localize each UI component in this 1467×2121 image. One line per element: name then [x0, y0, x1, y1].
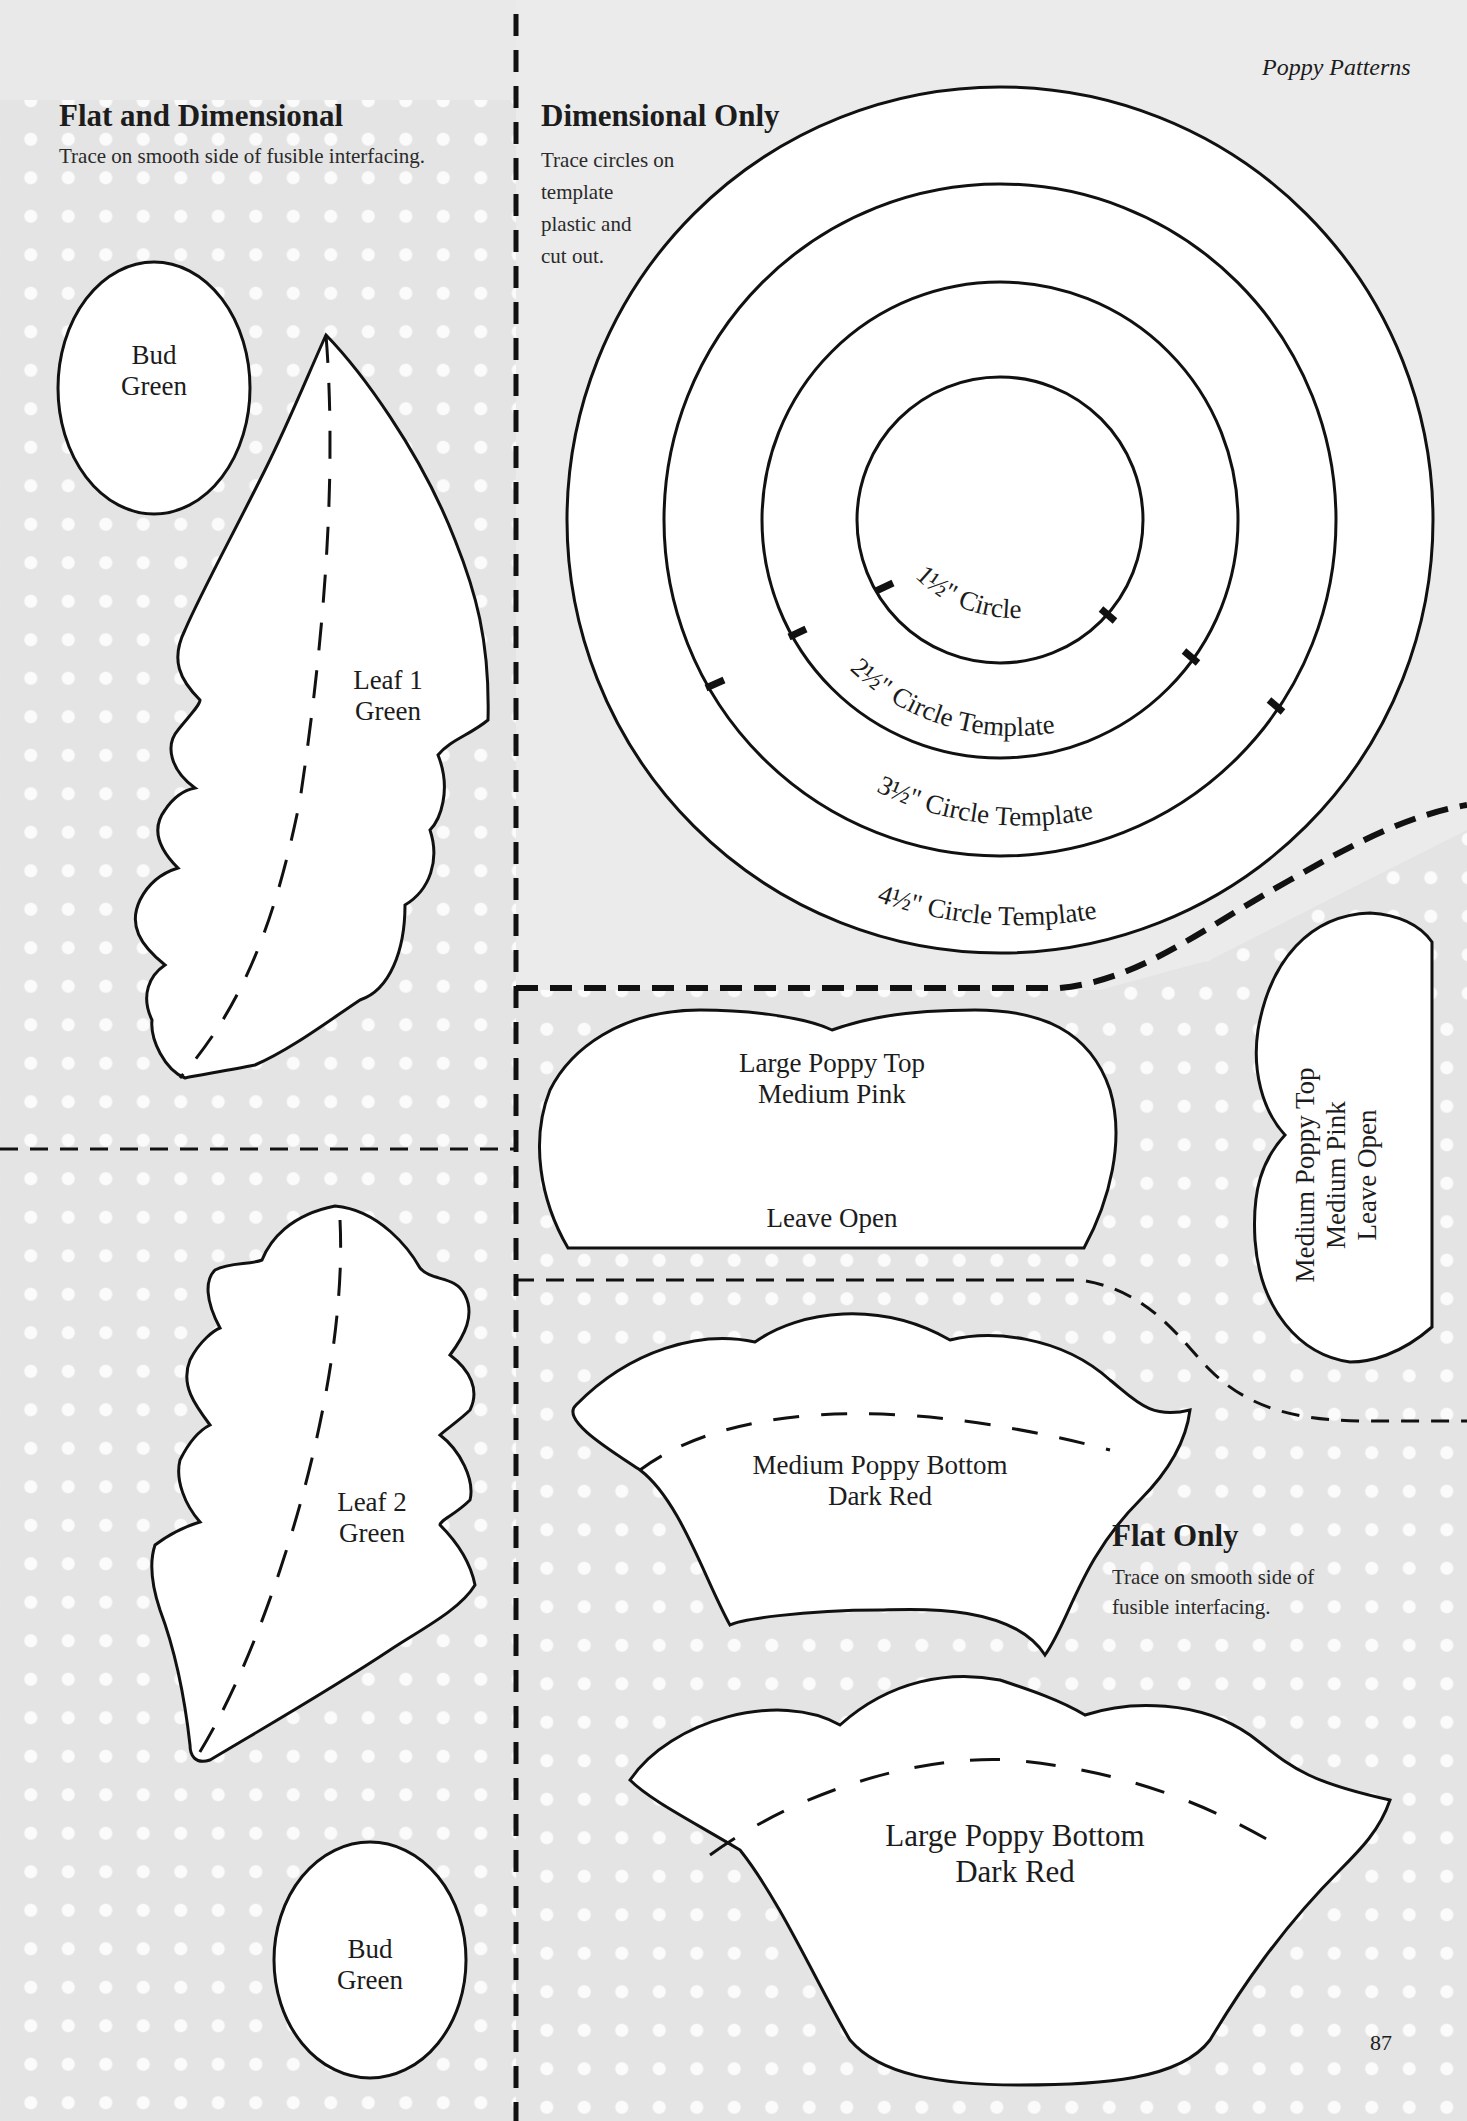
bud-top-label: Bud Green — [104, 340, 204, 402]
leaf-1-label: Leaf 1 Green — [338, 665, 438, 727]
leaf-2-shape — [152, 1206, 475, 1761]
flat-only-heading: Flat Only — [1112, 1518, 1239, 1554]
flat-and-dimensional-heading: Flat and Dimensional — [59, 98, 343, 134]
dimensional-only-instruction: Trace circles on template plastic and cu… — [541, 144, 674, 272]
medium-poppy-top-label: Medium Poppy Top Medium Pink Leave Open — [1290, 1025, 1383, 1325]
large-poppy-top-note: Leave Open — [682, 1203, 982, 1234]
large-poppy-bottom-label: Large Poppy Bottom Dark Red — [850, 1818, 1180, 1889]
pattern-page: 1½" Circle 2½" Circle Template 3½" Circl… — [0, 0, 1467, 2121]
page-number: 87 — [1370, 2030, 1392, 2055]
large-poppy-top-label: Large Poppy Top Medium Pink — [682, 1048, 982, 1110]
flat-only-instruction: Trace on smooth side of fusible interfac… — [1112, 1562, 1314, 1622]
running-title: Poppy Patterns — [1262, 54, 1411, 82]
medium-poppy-bottom-label: Medium Poppy Bottom Dark Red — [730, 1450, 1030, 1512]
bud-bottom-label: Bud Green — [320, 1934, 420, 1996]
leaf-2-label: Leaf 2 Green — [322, 1487, 422, 1549]
flat-and-dimensional-instruction: Trace on smooth side of fusible interfac… — [59, 144, 425, 168]
dimensional-only-heading: Dimensional Only — [541, 98, 780, 134]
